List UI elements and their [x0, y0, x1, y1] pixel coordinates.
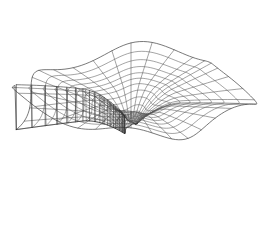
surface-plot-figure: Riemann surface wireframe	[0, 0, 262, 234]
riemann-surface-wireframe	[0, 0, 262, 234]
